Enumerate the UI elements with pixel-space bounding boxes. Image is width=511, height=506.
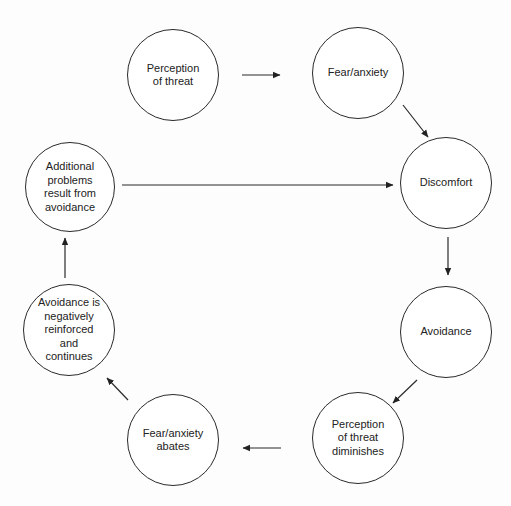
node-fear-anxiety-abates: Fear/anxiety abates bbox=[127, 394, 219, 486]
node-perception-of-threat: Perception of threat bbox=[127, 29, 219, 121]
node-label: Avoidance is negatively reinforced and c… bbox=[32, 296, 106, 364]
node-avoidance: Avoidance bbox=[400, 286, 492, 378]
arrows-layer bbox=[0, 0, 511, 506]
node-label: Perception of threat diminishes bbox=[326, 418, 391, 459]
arrow-fear-anxiety-abates-to-avoidance-negatively-reinforced bbox=[107, 378, 128, 400]
node-label: Fear/anxiety bbox=[322, 66, 395, 80]
node-label: Discomfort bbox=[414, 176, 479, 190]
arrow-avoidance-to-perception-of-threat-diminishes bbox=[393, 380, 417, 403]
node-label: Perception of threat bbox=[141, 62, 206, 89]
node-label: Avoidance bbox=[414, 325, 477, 339]
cycle-diagram: Perception of threat Fear/anxiety Discom… bbox=[0, 0, 511, 506]
arrow-fear-anxiety-to-discomfort bbox=[403, 105, 428, 137]
node-perception-of-threat-diminishes: Perception of threat diminishes bbox=[312, 392, 404, 484]
node-fear-anxiety: Fear/anxiety bbox=[312, 27, 404, 119]
node-label: Additional problems result from avoidanc… bbox=[38, 160, 102, 214]
node-discomfort: Discomfort bbox=[400, 137, 492, 229]
node-avoidance-negatively-reinforced: Avoidance is negatively reinforced and c… bbox=[23, 284, 115, 376]
node-label: Fear/anxiety abates bbox=[137, 427, 210, 454]
node-additional-problems: Additional problems result from avoidanc… bbox=[25, 142, 115, 232]
